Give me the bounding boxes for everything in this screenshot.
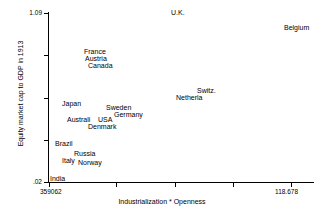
y-axis-line: [48, 12, 49, 183]
x-axis-tick: [291, 183, 292, 187]
data-point-label: Canada: [88, 62, 113, 69]
data-point-label: Russia: [74, 150, 95, 157]
data-point-label: USA: [98, 116, 112, 123]
data-point-label: Austria: [85, 55, 107, 62]
y-axis-tick: [44, 98, 48, 99]
y-axis-tick-label-bottom: .02: [33, 179, 42, 186]
x-axis-tick: [116, 183, 117, 187]
data-point-label: Belgium: [284, 24, 309, 31]
x-axis-tick: [175, 183, 176, 187]
data-point-label: U.K.: [171, 9, 185, 16]
data-point-label: Netherla: [176, 94, 202, 101]
y-axis-tick: [44, 13, 48, 14]
data-point-label: France: [84, 48, 106, 55]
y-axis-tick: [44, 140, 48, 141]
y-axis-title: Equity market cap to GDP in 1913: [17, 4, 24, 184]
data-point-label: Switz.: [197, 87, 216, 94]
x-axis-tick-label-left: 359062: [40, 189, 62, 196]
data-point-label: Brazil: [55, 140, 73, 147]
plot-area: 1.09 .02 359062 118.678 Industrializatio…: [0, 0, 324, 210]
y-axis-tick-label-top: 1.09: [29, 10, 42, 17]
x-axis-line: [48, 182, 314, 183]
data-point-label: Germany: [114, 111, 143, 118]
data-point-label: Italy: [62, 157, 75, 164]
data-point-label: Japan: [62, 100, 81, 107]
data-point-label: Norway: [78, 159, 102, 166]
scatter-plot-figure: 1.09 .02 359062 118.678 Industrializatio…: [0, 0, 324, 210]
y-axis-tick: [44, 55, 48, 56]
data-point-label: Australi: [67, 116, 90, 123]
data-point-label: Denmark: [88, 123, 116, 130]
data-point-label: India: [50, 175, 65, 182]
x-axis-tick: [233, 183, 234, 187]
x-axis-tick: [49, 183, 50, 187]
y-axis-tick: [44, 182, 48, 183]
data-point-label: Sweden: [106, 104, 131, 111]
x-axis-title: Industrialization * Openness: [0, 198, 324, 205]
x-axis-tick-label-right: 118.678: [275, 189, 298, 196]
